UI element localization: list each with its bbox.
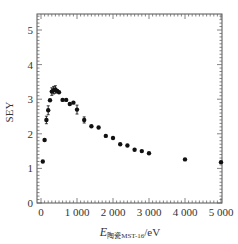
data-point <box>104 134 108 138</box>
data-points <box>41 86 224 165</box>
y-tick-label: 2 <box>28 128 34 140</box>
y-tick-label: 1 <box>28 162 34 174</box>
data-point <box>111 136 115 140</box>
y-tick-label: 5 <box>28 24 34 36</box>
data-point <box>219 160 223 164</box>
minor-ticks <box>37 14 222 203</box>
x-axis-label-unit: /eV <box>144 226 160 238</box>
x-tick-label: 2 000 <box>101 206 126 218</box>
data-point <box>183 157 187 161</box>
data-point <box>89 124 93 128</box>
y-axis-label: SEY <box>3 102 15 123</box>
data-point <box>147 151 151 155</box>
data-point <box>118 142 122 146</box>
data-point <box>82 118 86 122</box>
data-point <box>41 159 45 163</box>
plot-frame <box>37 14 222 203</box>
major-ticks <box>37 14 222 203</box>
y-tick-label: 3 <box>28 93 34 105</box>
x-tick-label: 3 000 <box>137 206 162 218</box>
x-tick-label: 5 000 <box>209 206 234 218</box>
y-tick-label: 0 <box>28 197 34 209</box>
y-tick-label: 4 <box>28 59 34 71</box>
data-point <box>125 143 129 147</box>
sey-scatter-chart: 01 0002 0003 0004 0005 000 012345 SEY E陶… <box>0 0 238 244</box>
data-point <box>71 100 75 104</box>
x-tick-label: 4 000 <box>173 206 198 218</box>
data-point <box>57 90 61 94</box>
data-point <box>44 118 48 122</box>
data-point <box>64 98 68 102</box>
data-point <box>140 149 144 153</box>
x-axis-label-subscript: 陶瓷MST-16 <box>107 231 145 240</box>
x-axis-label: E陶瓷MST-16/eV <box>99 225 160 240</box>
data-point <box>42 138 46 142</box>
data-point <box>132 148 136 152</box>
data-point <box>75 107 79 111</box>
data-point <box>48 98 52 102</box>
x-tick-label: 1 000 <box>65 206 90 218</box>
x-axis-tick-labels: 01 0002 0003 0004 0005 000 <box>38 206 234 218</box>
x-tick-label: 0 <box>38 206 44 218</box>
data-point <box>96 125 100 129</box>
data-point <box>46 108 50 112</box>
y-axis-tick-labels: 012345 <box>28 24 34 209</box>
